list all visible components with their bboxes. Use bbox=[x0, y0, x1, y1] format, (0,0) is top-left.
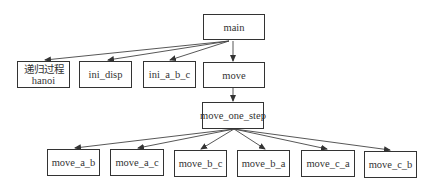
node-move: move bbox=[203, 62, 265, 88]
node-move-b-c: move_b_c bbox=[174, 150, 227, 177]
node-move-b-a: move_b_a bbox=[237, 150, 290, 177]
edge-main-ini-disp bbox=[108, 41, 229, 60]
node-label: ini_disp bbox=[89, 69, 123, 80]
node-label-line1: 递归过程 bbox=[24, 64, 64, 75]
node-move-c-b: move_c_b bbox=[364, 151, 417, 178]
node-label: main bbox=[224, 22, 245, 33]
node-hanoi: 递归过程 hanoi bbox=[17, 61, 70, 88]
node-label: move_one_step bbox=[200, 110, 266, 121]
edge-step-c-b bbox=[234, 129, 390, 150]
node-label: move_b_a bbox=[242, 158, 286, 169]
node-move-one-step: move_one_step bbox=[202, 102, 264, 129]
edge-main-hanoi bbox=[45, 41, 229, 60]
node-label: ini_a_b_c bbox=[149, 69, 190, 80]
node-main: main bbox=[203, 14, 265, 40]
node-move-a-b: move_a_b bbox=[47, 149, 100, 176]
edge-step-c-a bbox=[234, 129, 327, 149]
node-label: move bbox=[222, 70, 245, 81]
node-label-line2: hanoi bbox=[32, 75, 55, 86]
node-label: move_c_b bbox=[369, 159, 413, 170]
node-label: move_c_a bbox=[306, 158, 349, 169]
node-label: move_a_c bbox=[115, 157, 158, 168]
node-label: move_b_c bbox=[179, 158, 223, 169]
node-move-a-c: move_a_c bbox=[110, 149, 164, 176]
node-move-c-a: move_c_a bbox=[301, 150, 355, 177]
node-ini-disp: ini_disp bbox=[79, 61, 132, 88]
node-ini-a-b-c: ini_a_b_c bbox=[143, 61, 196, 88]
node-label: move_a_b bbox=[52, 157, 96, 168]
